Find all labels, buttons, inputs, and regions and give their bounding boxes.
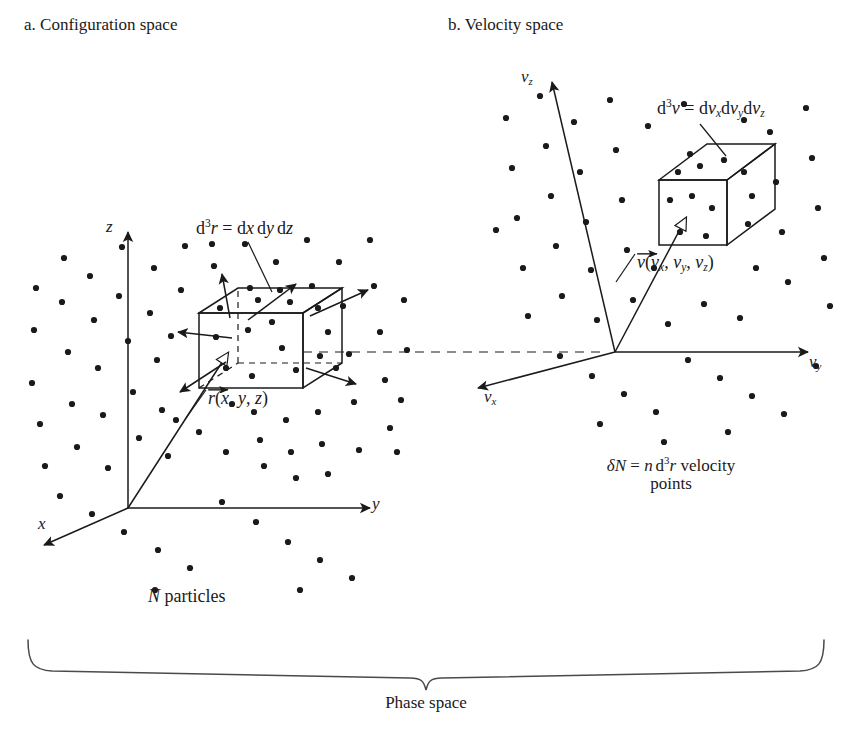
rvec-arg3: z (255, 388, 262, 408)
d3v-t3-var: v (752, 98, 760, 118)
configuration-particle-cloud (29, 237, 410, 593)
d3r-t3-var: z (286, 218, 293, 238)
big-n-symbol: N (615, 456, 626, 475)
d3v-t2-d: d (721, 98, 730, 118)
d3r-leader-line (248, 242, 272, 292)
vvec-arg1: v (651, 252, 659, 272)
d3r-variable: r (211, 218, 218, 238)
vy-base: v (809, 352, 817, 371)
n-particles-word: particles (165, 586, 226, 606)
d3r-t1-d: d (237, 218, 246, 238)
d3v-t3-d: d (743, 98, 752, 118)
d3r-formula: d3r = dxdydz (196, 217, 293, 238)
phase-space-brace (28, 640, 824, 690)
vvec-leader-line (616, 254, 635, 282)
axis-label-vx: vx (484, 388, 496, 407)
vz-subscript: z (529, 75, 533, 87)
d3v-t3-sub: z (760, 107, 764, 119)
panel-b-title: b. Velocity space (448, 16, 563, 34)
small-n-symbol: n (644, 456, 653, 475)
vx-subscript: x (492, 395, 497, 407)
rvec-leader-line (186, 390, 206, 418)
delta-n-line-1: δN = nd3r velocity (556, 455, 786, 475)
axis-label-y: y (372, 495, 380, 513)
d3r-t3-d: d (277, 218, 286, 238)
delta-n-equals: = (630, 456, 640, 475)
rvec-comma2: , (246, 388, 251, 408)
axis-label-vz: vz (521, 68, 533, 87)
axis-label-vy: vy (809, 353, 821, 372)
d3v-t1-var: v (708, 98, 716, 118)
vvec-comma1: , (664, 252, 669, 272)
configuration-space-panel (29, 232, 600, 593)
d3r-t2-d: d (257, 218, 266, 238)
position-vector-arrow (128, 353, 228, 508)
vy-subscript: y (817, 360, 822, 372)
rvec-arg1: x (221, 388, 229, 408)
delta-n-r: r (670, 456, 677, 475)
vvec-arg2: v (673, 252, 681, 272)
vz-axis (552, 82, 615, 352)
velocity-vector-label: v (vx, vy, vz) (637, 253, 714, 273)
r-vector-symbol: r (208, 389, 215, 408)
d3v-d: d (657, 98, 666, 118)
d3r-t2-var: y (266, 218, 274, 238)
delta-n-caption: δN = nd3r velocity points (556, 455, 786, 492)
axis-label-x: x (38, 515, 46, 533)
d3v-variable: v (672, 98, 680, 118)
d3v-t2-var: v (730, 98, 738, 118)
d3r-t1-var: x (246, 218, 254, 238)
d3v-leader-line (700, 124, 726, 156)
velocity-vector-arrow (615, 218, 686, 352)
physics-figure: a. Configuration space b. Velocity space… (0, 0, 852, 750)
v-vector-symbol: v (637, 253, 645, 272)
rvec-comma1: , (229, 388, 234, 408)
velocity-axes (478, 82, 808, 388)
phase-space-caption: Phase space (0, 694, 852, 712)
vx-base: v (484, 387, 492, 406)
velocity-arrows-from-cube (178, 274, 368, 392)
d3v-formula: d3v = dvxdvydvz (657, 97, 765, 119)
delta-n-word: velocity (680, 456, 735, 475)
position-vector-label: r (x, y, z) (208, 389, 268, 408)
velocity-volume-cube (659, 144, 775, 245)
r-symbol: r (208, 388, 215, 408)
delta-symbol: δ (607, 456, 615, 475)
vz-base: v (521, 67, 529, 86)
delta-n-d: d (656, 456, 665, 475)
rvec-arg2: y (238, 388, 246, 408)
axis-label-z: z (106, 218, 113, 236)
n-particles-caption: N particles (148, 587, 226, 606)
d3v-t1-d: d (699, 98, 708, 118)
vvec-comma2: , (686, 252, 691, 272)
vx-axis (478, 352, 615, 388)
rvec-close: ) (262, 388, 268, 408)
n-particles-symbol: N (148, 586, 160, 606)
d3v-equals: = (684, 98, 694, 118)
delta-n-line-2: points (556, 475, 786, 493)
d3r-d: d (196, 218, 205, 238)
x-axis (44, 508, 128, 545)
v-symbol: v (637, 252, 645, 272)
panel-a-title: a. Configuration space (24, 16, 177, 34)
d3r-equals: = (222, 218, 232, 238)
vvec-close: ) (708, 252, 714, 272)
